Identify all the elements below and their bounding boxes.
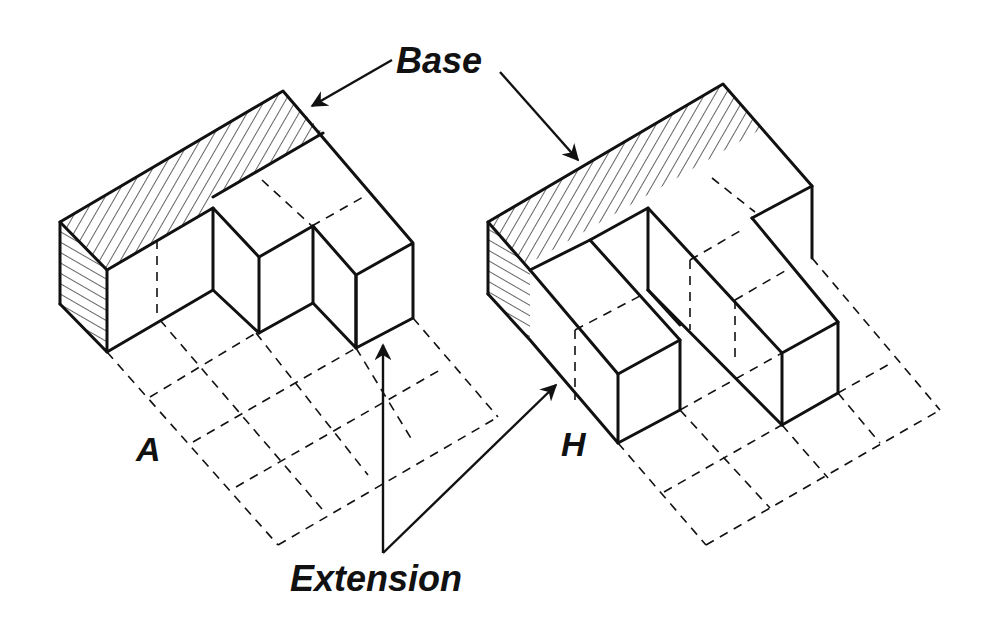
base-arrow-h: [500, 72, 578, 160]
diagram-canvas: Base Extension A H: [0, 0, 995, 627]
extension-label: Extension: [290, 558, 462, 600]
figure-a: [60, 91, 498, 545]
annotation-arrows: [312, 60, 578, 553]
figure-a-floor-grid: [107, 318, 498, 545]
base-arrow-a: [312, 60, 392, 106]
base-label: Base: [396, 40, 482, 82]
figure-h-label: H: [561, 425, 586, 464]
figure-h-floor-grid: [618, 258, 940, 545]
figure-h: [488, 84, 940, 545]
figure-a-label: A: [136, 430, 161, 469]
isometric-drawing: [0, 0, 995, 627]
